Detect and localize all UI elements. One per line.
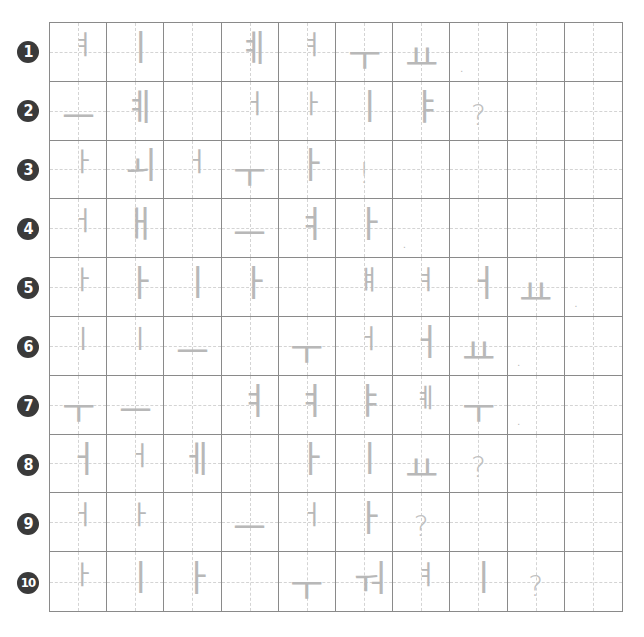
tracing-cell[interactable] xyxy=(565,493,622,552)
tracing-cell[interactable]: ㅓ xyxy=(450,258,507,317)
tracing-cell[interactable]: ㅕ xyxy=(393,258,450,317)
tracing-cell[interactable]: ㅏ xyxy=(279,82,336,141)
tracing-cell[interactable] xyxy=(508,82,565,141)
tracing-cell[interactable]: ㅛ xyxy=(508,258,565,317)
tracing-cell[interactable]: ㅕ xyxy=(279,199,336,258)
tracing-cell[interactable]: ? xyxy=(508,552,565,611)
tracing-cell[interactable] xyxy=(450,493,507,552)
tracing-cell[interactable]: ㅣ xyxy=(336,435,393,494)
tracing-cell[interactable] xyxy=(164,493,221,552)
tracing-cell[interactable]: ㅛ xyxy=(393,23,450,82)
tracing-cell[interactable]: ㅏ xyxy=(50,552,107,611)
tracing-cell[interactable]: ㅏ xyxy=(164,552,221,611)
tracing-cell[interactable] xyxy=(450,141,507,200)
tracing-cell[interactable] xyxy=(565,552,622,611)
tracing-cell[interactable]: ㅏ xyxy=(107,258,164,317)
tracing-cell[interactable]: . xyxy=(508,317,565,376)
tracing-cell[interactable]: ㅏ xyxy=(50,258,107,317)
tracing-cell[interactable]: ㅓ xyxy=(50,493,107,552)
tracing-cell[interactable]: ㅣ xyxy=(107,552,164,611)
tracing-cell[interactable]: ㅜ xyxy=(450,376,507,435)
tracing-cell[interactable] xyxy=(222,552,279,611)
tracing-cell[interactable]: ㅣ xyxy=(164,258,221,317)
tracing-cell[interactable]: ㅏ xyxy=(222,258,279,317)
tracing-cell[interactable]: ㅕ xyxy=(279,376,336,435)
tracing-cell[interactable] xyxy=(508,435,565,494)
tracing-cell[interactable] xyxy=(565,199,622,258)
tracing-cell[interactable] xyxy=(565,82,622,141)
tracing-cell[interactable]: ㅖ xyxy=(222,23,279,82)
tracing-cell[interactable] xyxy=(508,23,565,82)
tracing-cell[interactable]: ㅓ xyxy=(393,317,450,376)
tracing-cell[interactable]: ㅡ xyxy=(164,317,221,376)
tracing-cell[interactable] xyxy=(508,199,565,258)
tracing-cell[interactable]: ㅖ xyxy=(107,82,164,141)
tracing-cell[interactable] xyxy=(565,23,622,82)
tracing-cell[interactable]: ㅛ xyxy=(450,317,507,376)
tracing-cell[interactable]: ㅏ xyxy=(336,199,393,258)
tracing-cell[interactable] xyxy=(508,141,565,200)
tracing-cell[interactable] xyxy=(164,82,221,141)
tracing-cell[interactable]: ㅡ xyxy=(222,493,279,552)
tracing-cell[interactable]: . xyxy=(450,23,507,82)
tracing-cell[interactable]: ㅕ xyxy=(393,552,450,611)
tracing-cell[interactable]: ㅓ xyxy=(107,435,164,494)
tracing-cell[interactable]: . xyxy=(565,258,622,317)
tracing-cell[interactable] xyxy=(565,376,622,435)
tracing-cell[interactable]: ㅐ xyxy=(107,199,164,258)
tracing-cell[interactable] xyxy=(565,435,622,494)
tracing-cell[interactable]: ㅚ xyxy=(107,141,164,200)
tracing-cell[interactable]: ㅓ xyxy=(222,82,279,141)
tracing-cell[interactable]: ㅡ xyxy=(107,376,164,435)
tracing-cell[interactable]: ㅏ xyxy=(336,493,393,552)
tracing-cell[interactable]: ㅣ xyxy=(50,317,107,376)
tracing-cell[interactable]: ㅓ xyxy=(50,435,107,494)
tracing-cell[interactable] xyxy=(164,199,221,258)
tracing-cell[interactable]: ㅓ xyxy=(279,493,336,552)
tracing-cell[interactable] xyxy=(222,317,279,376)
tracing-cell[interactable]: ㅣ xyxy=(450,552,507,611)
tracing-cell[interactable] xyxy=(393,141,450,200)
tracing-cell[interactable]: ㅏ xyxy=(107,493,164,552)
tracing-cell[interactable]: ㅏ xyxy=(50,141,107,200)
tracing-cell[interactable]: ㅑ xyxy=(393,82,450,141)
tracing-cell[interactable]: ㅕ xyxy=(50,23,107,82)
tracing-cell[interactable]: ㅕ xyxy=(279,23,336,82)
tracing-cell[interactable] xyxy=(164,23,221,82)
tracing-cell[interactable]: ? xyxy=(450,82,507,141)
tracing-cell[interactable]: ? xyxy=(393,493,450,552)
tracing-cell[interactable]: ㅓ xyxy=(164,141,221,200)
tracing-cell[interactable]: ㅛ xyxy=(393,435,450,494)
tracing-cell[interactable]: ㅏ xyxy=(279,435,336,494)
tracing-cell[interactable]: ㅣ xyxy=(336,82,393,141)
tracing-cell[interactable]: ㅜ xyxy=(50,376,107,435)
tracing-cell[interactable]: ㅒ xyxy=(336,258,393,317)
tracing-cell[interactable]: ㅜ xyxy=(279,552,336,611)
tracing-cell[interactable]: ㅜ xyxy=(222,141,279,200)
tracing-cell[interactable] xyxy=(279,258,336,317)
tracing-cell[interactable]: ㅑ xyxy=(336,376,393,435)
tracing-cell[interactable] xyxy=(565,141,622,200)
tracing-cell[interactable]: ㅜ xyxy=(336,23,393,82)
tracing-cell[interactable]: ㅓ xyxy=(336,317,393,376)
tracing-cell[interactable] xyxy=(222,435,279,494)
tracing-cell[interactable]: ㅖ xyxy=(393,376,450,435)
tracing-cell[interactable]: ㅓ xyxy=(50,199,107,258)
tracing-cell[interactable]: ㅕ xyxy=(222,376,279,435)
tracing-cell[interactable]: . xyxy=(393,199,450,258)
tracing-cell[interactable] xyxy=(164,376,221,435)
tracing-cell[interactable]: ㅡ xyxy=(50,82,107,141)
tracing-cell[interactable]: . xyxy=(508,376,565,435)
tracing-cell[interactable]: ㅣ xyxy=(107,23,164,82)
tracing-cell[interactable]: ㅏ xyxy=(279,141,336,200)
tracing-cell[interactable]: ㅣ xyxy=(107,317,164,376)
tracing-cell[interactable] xyxy=(450,199,507,258)
tracing-cell[interactable]: ㅝ xyxy=(336,552,393,611)
tracing-cell[interactable] xyxy=(508,493,565,552)
tracing-cell[interactable]: ㅔ xyxy=(164,435,221,494)
tracing-cell[interactable]: ㅜ xyxy=(279,317,336,376)
tracing-cell[interactable]: ! xyxy=(336,141,393,200)
tracing-cell[interactable] xyxy=(565,317,622,376)
tracing-cell[interactable]: ? xyxy=(450,435,507,494)
tracing-cell[interactable]: ㅡ xyxy=(222,199,279,258)
